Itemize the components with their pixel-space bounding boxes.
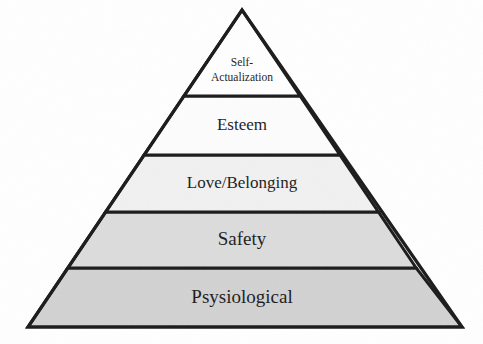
tier-label-safety: Safety	[218, 228, 267, 249]
pyramid-svg-canvas: Psysiological Safety Love/Belonging Este…	[0, 0, 483, 344]
pyramid-tier-love-belonging[interactable]: Love/Belonging	[106, 155, 379, 212]
tier-label-self-actualization-line2: Actualization	[211, 71, 273, 83]
pyramid-tier-safety[interactable]: Safety	[68, 212, 416, 268]
tier-label-self-actualization-line1: Self-	[231, 56, 254, 68]
pyramid-tier-psysiological[interactable]: Psysiological	[28, 268, 462, 327]
tier-label-esteem: Esteem	[217, 115, 267, 134]
tier-label-love-belonging: Love/Belonging	[187, 173, 298, 192]
pyramid-diagram: Psysiological Safety Love/Belonging Este…	[0, 0, 483, 344]
tier-label-psysiological: Psysiological	[191, 286, 292, 307]
